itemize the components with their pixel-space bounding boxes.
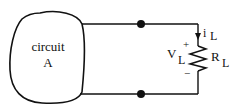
circuit-diagram: circuit A i L + V L − R L: [0, 0, 240, 110]
top-terminal-node: [137, 20, 145, 28]
current-label: i: [203, 26, 207, 40]
load-resistor: [190, 46, 206, 71]
minus-sign: −: [184, 67, 190, 79]
resistor-label: R: [211, 49, 220, 64]
circuit-name-label: A: [43, 55, 53, 70]
circuit-label: circuit: [31, 39, 65, 54]
voltage-subscript: L: [178, 53, 185, 67]
current-subscript: L: [210, 29, 217, 43]
resistor-subscript: L: [222, 56, 229, 70]
current-arrow-icon: [195, 33, 201, 40]
bottom-terminal-node: [137, 90, 145, 98]
plus-sign: +: [183, 38, 189, 50]
voltage-label: V: [167, 46, 177, 61]
